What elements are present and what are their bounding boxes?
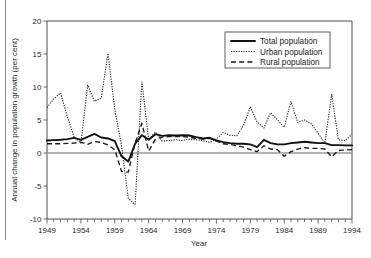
y-axis-title: Annual change in population growth (per … [10,38,19,202]
y-tick-label: 0 [37,149,42,158]
legend-label-total-population: Total population [260,37,318,46]
page-left-rule [5,0,6,240]
legend-label-urban-population: Urban population [260,48,323,57]
y-tick-label: 15 [33,50,42,59]
y-tick-label: 20 [33,17,42,26]
x-tick-label: 1994 [343,226,361,235]
y-tick-label: -10 [30,215,42,224]
legend-label-rural-population: Rural population [260,58,320,67]
x-axis-title: Year [191,239,208,248]
series-layer [47,53,352,204]
x-tick-label: 1949 [38,226,56,235]
x-tick-label: 1959 [106,226,124,235]
x-tick-label: 1974 [208,226,226,235]
x-tick-label: 1984 [275,226,293,235]
y-tick-label: 10 [33,83,42,92]
x-tick-label: 1954 [72,226,90,235]
x-tick-label: 1964 [140,226,158,235]
x-tick-label: 1989 [309,226,327,235]
figure-container: -10-505101520194919541959196419691974197… [0,0,371,258]
population-growth-line-chart: -10-505101520194919541959196419691974197… [0,0,371,258]
x-tick-label: 1969 [174,226,192,235]
y-tick-label: 5 [37,116,42,125]
x-tick-label: 1979 [241,226,259,235]
series-line-urban-population [47,53,352,204]
chart-legend: Total populationUrban populationRural po… [225,32,330,68]
y-tick-label: -5 [34,182,42,191]
series-line-rural-population [47,123,352,172]
